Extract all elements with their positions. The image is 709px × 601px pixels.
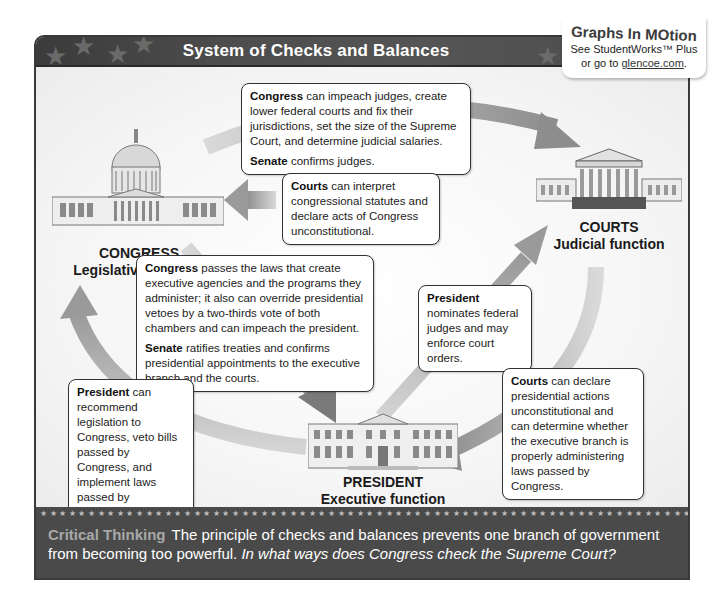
box-subject: Courts — [291, 180, 328, 192]
box-text: can recommend legislation to Congress, v… — [77, 386, 177, 518]
badge-line-2: or go to glencoe.com. — [562, 56, 706, 70]
box-text: nominates federal judges and may enforce… — [427, 307, 518, 364]
box-subject: President — [77, 386, 129, 398]
badge-line-2-prefix: or go to — [581, 57, 621, 69]
courts-function: Judicial function — [536, 236, 682, 253]
box-text: confirms judges. — [288, 155, 375, 167]
box-president-checks-congress: President can recommend legislation to C… — [68, 379, 194, 526]
box-subject: Courts — [511, 375, 548, 387]
badge-line-2-suffix: . — [684, 57, 687, 69]
box-subject: Congress — [250, 90, 303, 102]
arrow-courts-to-congress — [246, 191, 276, 209]
diagram-frame: ★ ★ ★ ★ ★ System of Checks and Balances — [34, 35, 690, 580]
courts-label: COURTS Judicial function — [536, 219, 682, 253]
critical-thinking-text: Critical ThinkingThe principle of checks… — [48, 525, 678, 563]
supreme-court-building-icon — [536, 147, 682, 217]
badge-line-1: See StudentWorks™ Plus — [562, 42, 706, 56]
box-congress-checks-courts: Congress can impeach judges, create lowe… — [241, 83, 471, 175]
critical-thinking-label: Critical Thinking — [48, 526, 166, 543]
diagram-content: CONGRESS Legislative function COURTS Jud… — [36, 67, 688, 507]
box-text: can declare presidential actions unconst… — [511, 375, 629, 492]
star-border-decoration: ★★★★★★★★★★★★★★★★★★★★★★★★★★★★★★★★★★★★★★★★… — [36, 509, 688, 519]
arrowhead-congress-to-courts — [534, 112, 581, 149]
box-subject: Senate — [250, 155, 288, 167]
courts-name: COURTS — [536, 219, 682, 236]
arrowhead-courts-to-congress — [224, 179, 248, 221]
box-subject: Senate — [145, 342, 183, 354]
president-name: PRESIDENT — [298, 474, 468, 491]
box-subject: Congress — [145, 262, 198, 274]
box-courts-checks-president: Courts can declare presidential actions … — [502, 368, 644, 500]
graphs-in-motion-badge: Graphs In MOtion See StudentWorks™ Plus … — [562, 18, 706, 78]
box-subject: President — [427, 292, 479, 304]
critical-thinking-footer: ★★★★★★★★★★★★★★★★★★★★★★★★★★★★★★★★★★★★★★★★… — [36, 507, 688, 580]
glencoe-link[interactable]: glencoe.com — [621, 57, 683, 69]
critical-thinking-question: In what ways does Congress check the Sup… — [241, 545, 615, 562]
box-president-checks-courts: President nominates federal judges and m… — [418, 285, 532, 372]
arrowhead-president-to-congress — [60, 285, 98, 319]
capitol-building-icon — [52, 127, 224, 247]
white-house-icon — [308, 412, 458, 472]
president-function: Executive function — [298, 491, 468, 508]
president-label: PRESIDENT Executive function — [298, 474, 468, 508]
diagram-title: System of Checks and Balances — [36, 41, 596, 61]
box-courts-checks-congress: Courts can interpret congressional statu… — [282, 173, 440, 245]
box-congress-checks-president: Congress passes the laws that create exe… — [136, 255, 374, 392]
